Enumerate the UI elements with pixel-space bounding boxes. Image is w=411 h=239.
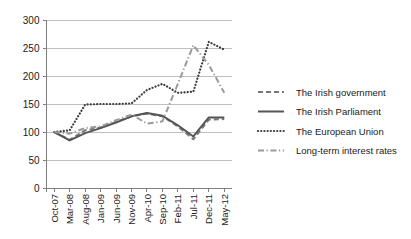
- legend-label: Long-term interest rates: [296, 145, 397, 156]
- x-tick-label: Jan-09: [95, 194, 106, 223]
- line-chart: 050100150200250300 Oct-07Mar-08Aug-08Jan…: [0, 0, 411, 239]
- x-tick-label: Dec-11: [203, 194, 214, 224]
- x-tick-label: Sep-10: [157, 194, 168, 225]
- y-tick-label: 0: [34, 183, 40, 194]
- legend-label: The Irish government: [296, 87, 386, 98]
- chart-canvas: 050100150200250300 Oct-07Mar-08Aug-08Jan…: [0, 0, 411, 239]
- y-tick-label: 150: [23, 99, 40, 110]
- x-tick-label: Feb-11: [172, 194, 183, 223]
- y-tick-label: 250: [23, 43, 40, 54]
- legend-label: The Irish Parliament: [296, 106, 381, 117]
- x-tick-label: May-12: [219, 194, 230, 226]
- x-tick-label: Mar-08: [64, 194, 75, 224]
- x-tick-label: Nov-09: [126, 194, 137, 225]
- x-tick-label: Jul-11: [188, 194, 199, 219]
- x-tick-label: Oct-07: [49, 194, 60, 223]
- y-tick-label: 100: [23, 127, 40, 138]
- x-tick-label: Aug-08: [80, 194, 91, 225]
- x-tick-label: Apr-10: [142, 194, 153, 223]
- legend-label: The European Union: [296, 126, 384, 137]
- y-tick-label: 300: [23, 15, 40, 26]
- y-tick-label: 200: [23, 71, 40, 82]
- x-tick-label: Jun-09: [111, 194, 122, 223]
- y-tick-label: 50: [28, 155, 40, 166]
